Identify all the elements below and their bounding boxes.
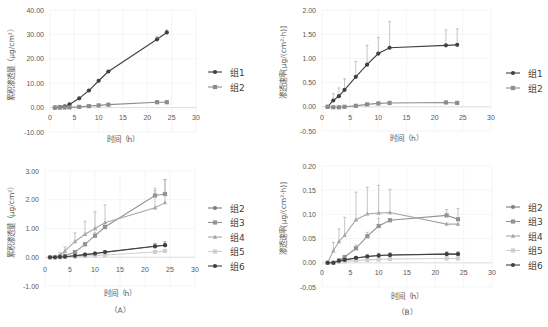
data-point-marker xyxy=(67,105,71,109)
chart-A1: -10.000.0010.0020.0030.0040.000510152025… xyxy=(6,7,245,145)
x-tick-labels: 051015202530 xyxy=(320,114,495,121)
data-point-marker xyxy=(388,257,392,261)
data-point-marker xyxy=(163,243,167,247)
x-tick-label: 10 xyxy=(375,269,383,276)
data-point-marker xyxy=(365,254,369,258)
legend-label: 组4 xyxy=(528,231,543,242)
data-point-marker xyxy=(456,252,460,256)
data-point-marker xyxy=(388,101,392,105)
legend-label: 组5 xyxy=(528,245,543,256)
data-point-marker xyxy=(331,105,335,109)
legend-item-组5: 组5 xyxy=(506,245,543,256)
x-tick-label: 5 xyxy=(72,114,76,121)
legend-item-组6: 组6 xyxy=(506,260,543,271)
data-point-marker xyxy=(445,213,449,217)
legend-marker xyxy=(511,71,515,75)
legend-item-组2: 组2 xyxy=(506,202,543,213)
y-tick-labels: -10.000.0010.0020.0030.0040.00 xyxy=(24,7,44,136)
x-tick-labels: 051015202530 xyxy=(48,114,200,121)
legend-marker xyxy=(511,263,515,267)
y-tick-label: 1.00 xyxy=(302,55,316,62)
x-tick-label: 30 xyxy=(192,114,200,121)
y-tick-labels: -0.050.000.050.100.150.20 xyxy=(300,163,316,291)
y-tick-label: 1.50 xyxy=(302,31,316,38)
x-tick-label: 10 xyxy=(95,114,103,121)
panel-caption: （B） xyxy=(397,308,416,317)
legend-marker xyxy=(213,85,217,89)
legend-marker xyxy=(213,264,217,268)
legend-label: 组6 xyxy=(528,260,543,271)
data-point-marker xyxy=(83,242,87,246)
y-tick-label: 0.50 xyxy=(302,79,316,86)
data-point-marker xyxy=(376,101,380,105)
y-axis-label: 累积渗透量（μg/cm²） xyxy=(6,183,16,259)
data-point-marker xyxy=(326,261,330,265)
x-axis-label: 时间（h） xyxy=(391,291,424,301)
x-tick-labels: 051015202530 xyxy=(320,269,496,276)
x-tick-label: 15 xyxy=(403,114,411,121)
data-point-marker xyxy=(354,75,358,79)
legend-item-组3: 组3 xyxy=(506,216,543,227)
legend-marker xyxy=(213,70,217,74)
data-point-marker xyxy=(83,253,87,257)
y-axis-label: 累积渗透量（μg/cm²） xyxy=(6,25,16,101)
data-point-marker xyxy=(456,217,460,221)
data-point-marker xyxy=(388,253,392,257)
series-组4 xyxy=(326,185,461,264)
data-point-marker xyxy=(163,200,167,204)
y-tick-label: -1.00 xyxy=(23,283,39,290)
data-point-marker xyxy=(106,103,110,107)
data-point-marker xyxy=(97,103,101,107)
x-tick-labels: 051015202530 xyxy=(43,266,199,273)
x-axis-label: 时间（h） xyxy=(107,134,140,144)
data-point-marker xyxy=(165,30,169,34)
legend-item-组3: 组3 xyxy=(208,217,245,228)
data-point-marker xyxy=(354,246,358,250)
legend-item-组1: 组1 xyxy=(208,67,245,78)
y-tick-label: 0.00 xyxy=(30,104,44,111)
data-point-marker xyxy=(337,259,341,263)
x-tick-label: 10 xyxy=(374,114,382,121)
x-tick-label: 30 xyxy=(191,266,199,273)
series-组2 xyxy=(326,100,460,109)
data-point-marker xyxy=(455,101,459,105)
data-point-marker xyxy=(153,244,157,248)
data-point-marker xyxy=(163,249,167,253)
data-point-marker xyxy=(53,106,57,110)
data-point-marker xyxy=(106,69,110,73)
data-point-marker xyxy=(342,88,346,92)
legend-item-组2: 组2 xyxy=(506,83,543,94)
legend-label: 组2 xyxy=(230,82,245,93)
x-tick-label: 15 xyxy=(116,266,124,273)
data-point-marker xyxy=(376,51,380,55)
legend-label: 组1 xyxy=(230,67,245,78)
y-tick-label: 1.00 xyxy=(25,225,39,232)
y-tick-label: -0.50 xyxy=(300,128,316,135)
x-tick-label: 5 xyxy=(68,266,72,273)
y-tick-label: 40.00 xyxy=(26,7,44,14)
legend-label: 组1 xyxy=(528,68,543,79)
data-point-marker xyxy=(155,100,159,104)
data-point-marker xyxy=(87,104,91,108)
data-point-marker xyxy=(354,256,358,260)
data-point-marker xyxy=(97,79,101,83)
legend-item-组2: 组2 xyxy=(208,82,245,93)
legend-marker xyxy=(511,86,515,90)
data-point-marker xyxy=(444,100,448,104)
y-axis-label: 渗透速率[μg/(cm²·h)] xyxy=(278,182,288,255)
data-point-marker xyxy=(73,254,77,258)
data-point-marker xyxy=(445,252,449,256)
legend-marker xyxy=(511,248,515,252)
y-tick-label: 20.00 xyxy=(26,55,44,62)
x-tick-label: 25 xyxy=(459,114,467,121)
y-axis-label: 渗透速率[μg/(cm²·h)] xyxy=(278,26,288,99)
data-point-marker xyxy=(455,43,459,47)
y-tick-label: 0.05 xyxy=(302,235,316,242)
y-tick-label: 0.00 xyxy=(302,103,316,110)
legend-label: 组2 xyxy=(528,83,543,94)
x-tick-label: 5 xyxy=(348,269,352,276)
y-tick-label: 0.00 xyxy=(302,259,316,266)
x-tick-label: 20 xyxy=(431,269,439,276)
x-axis-label: 时间（h） xyxy=(104,288,137,298)
legend-label: 组2 xyxy=(528,202,543,213)
